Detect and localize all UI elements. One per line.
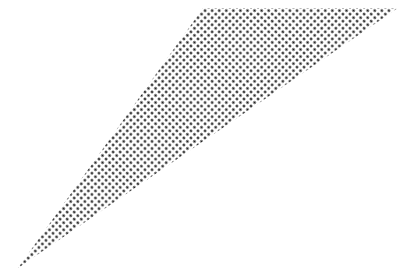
dotted-wedge-shape <box>18 8 398 268</box>
halftone-triangle-figure <box>0 0 407 273</box>
halftone-triangle-graphic <box>0 0 407 273</box>
